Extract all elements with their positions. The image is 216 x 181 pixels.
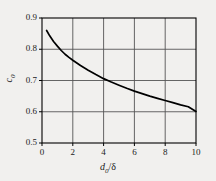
y-axis-title: c0 — [4, 67, 17, 91]
x-tick-label: 2 — [63, 148, 83, 157]
y-axis-title-base: c — [3, 78, 14, 82]
x-tick-label: 10 — [186, 148, 206, 157]
y-tick-label: 0.6 — [15, 107, 37, 116]
x-tick-label: 4 — [94, 148, 114, 157]
y-tick-label: 0.5 — [15, 138, 37, 147]
x-tick-label: 6 — [124, 148, 144, 157]
x-tick-label: 8 — [155, 148, 175, 157]
y-tick-label: 0.7 — [15, 76, 37, 85]
x-tick-label: 0 — [32, 148, 52, 157]
figure-container: 0.50.60.70.80.9 0246810 d0/δ c0 — [0, 0, 216, 181]
y-tick-label: 0.9 — [15, 13, 37, 22]
x-axis-title: d0/δ — [0, 162, 216, 175]
y-axis-title-subscript: 0 — [9, 75, 17, 79]
x-axis-title-tail: /δ — [109, 161, 117, 172]
y-tick-label: 0.8 — [15, 44, 37, 53]
